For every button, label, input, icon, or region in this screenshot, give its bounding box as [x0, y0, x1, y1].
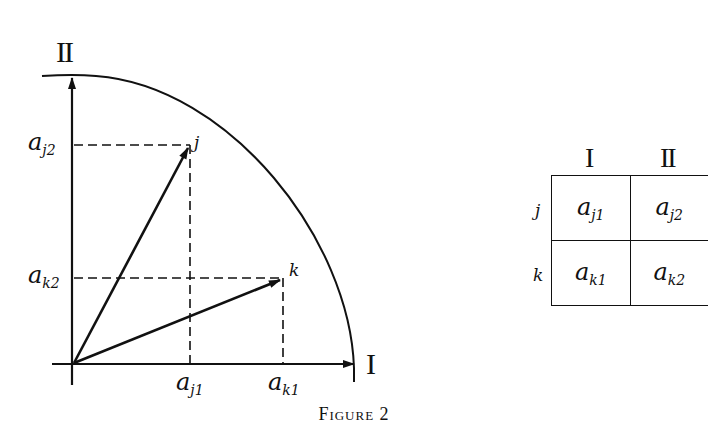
coord-a-j2: aj2	[28, 130, 56, 157]
table-cell: ak1	[552, 241, 631, 306]
table-cell: aj2	[630, 176, 708, 241]
axis-label-II: II	[56, 37, 72, 67]
table-row: aj1 aj2	[552, 176, 708, 241]
coord-a-j1: aj1	[176, 370, 204, 397]
table-row-label-j: j	[535, 200, 540, 220]
table-col-header-II: II	[660, 142, 675, 174]
loadings-table: aj1 aj2 ak1 ak2	[551, 175, 708, 306]
axis-label-I: I	[366, 349, 376, 379]
table-row: ak1 ak2	[552, 241, 708, 306]
vector-j	[74, 148, 188, 363]
point-label-k: k	[289, 262, 299, 279]
coord-a-k1: ak1	[268, 370, 300, 397]
table-cell: aj1	[552, 176, 631, 241]
figure-caption: Figure 2	[0, 404, 708, 425]
table-col-header-I: I	[585, 142, 594, 174]
table-cell: ak2	[630, 241, 708, 306]
unit-circle-arc	[42, 75, 354, 368]
vector-k	[74, 280, 280, 363]
table-row-label-k: k	[533, 265, 543, 285]
coord-a-k2: ak2	[28, 263, 60, 290]
point-label-j: j	[194, 134, 199, 151]
